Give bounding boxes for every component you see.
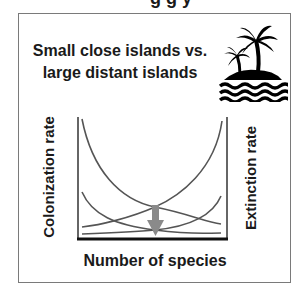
x-axis-label: Number of species (80, 252, 230, 270)
y-axis-label-colonization: Colonization rate (40, 116, 57, 238)
y-axis-label-extinction: Extinction rate (242, 126, 259, 230)
